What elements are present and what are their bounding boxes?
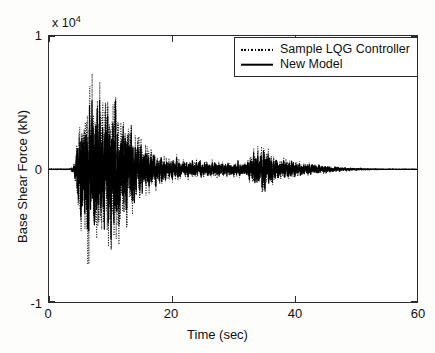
x-tick-label-60: 60 [411, 306, 425, 321]
plot-area: Sample LQG Controller New Model [48, 35, 418, 303]
solid-line-icon [240, 59, 274, 71]
y-axis-multiplier-exponent: 4 [76, 14, 81, 24]
y-axis-title: Base Shear Force (kN) [15, 67, 30, 287]
series-line-new-model [49, 100, 417, 238]
legend: Sample LQG Controller New Model [234, 37, 418, 77]
x-axis-title: Time (sec) [0, 327, 435, 342]
legend-label-sample-lqg-controller: Sample LQG Controller [280, 42, 410, 57]
x-tick-mark-60 [417, 296, 418, 302]
x-tick-mark-top-60 [417, 36, 418, 42]
y-axis-multiplier: x 104 [52, 14, 81, 30]
x-tick-label-40: 40 [288, 306, 302, 321]
legend-item-sample-lqg-controller[interactable]: Sample LQG Controller [240, 42, 412, 57]
figure-container: x 104 1 0 -1 0 20 40 60 Time (sec) Base … [0, 0, 435, 353]
legend-label-new-model: New Model [280, 57, 343, 72]
y-tick-label-minus1: -1 [16, 296, 42, 311]
x-tick-label-20: 20 [164, 306, 178, 321]
x-tick-label-0: 0 [44, 306, 51, 321]
y-axis-multiplier-base: x 10 [52, 16, 76, 30]
legend-item-new-model[interactable]: New Model [240, 57, 412, 72]
dotted-line-icon [240, 44, 274, 56]
y-tick-label-1: 1 [20, 28, 42, 43]
